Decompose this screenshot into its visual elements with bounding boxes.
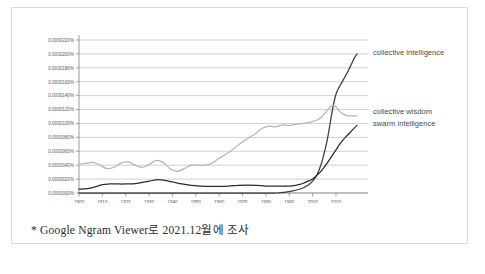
y-axis-tick-labels: 0.0000220%0.0000200%0.0000180%0.0000160%… bbox=[48, 38, 74, 196]
y-tick-label: 0.0000100% bbox=[48, 121, 74, 126]
x-tick-label: 1940 bbox=[167, 200, 178, 204]
series-line bbox=[79, 105, 357, 171]
x-tick-label: 1900 bbox=[74, 200, 85, 204]
series-label: swarm intelligence bbox=[373, 119, 435, 128]
x-tick-label: 2010 bbox=[331, 200, 342, 204]
y-tick-label: 0.0000000% bbox=[48, 191, 74, 196]
y-tick-label: 0.0000160% bbox=[48, 80, 74, 85]
x-tick-label: 1980 bbox=[261, 200, 272, 204]
x-tick-label: 1920 bbox=[121, 200, 132, 204]
series-label: collective intelligence bbox=[373, 48, 444, 57]
x-tick-label: 1970 bbox=[237, 200, 248, 204]
figure-frame: 0.0000220%0.0000200%0.0000180%0.0000160%… bbox=[11, 7, 468, 244]
y-tick-label: 0.0000200% bbox=[48, 52, 74, 57]
y-tick-label: 0.0000060% bbox=[48, 149, 74, 154]
y-tick-label: 0.0000180% bbox=[48, 66, 74, 71]
x-axis-tick-labels: 1900191019201930194019501960197019801990… bbox=[74, 200, 342, 204]
series-annotation-labels: collective intelligencecollective wisdom… bbox=[373, 48, 444, 128]
chart-source-caption: * Google Ngram Viewer로 2021.12월에 조사 bbox=[31, 221, 249, 237]
series-label: collective wisdom bbox=[373, 107, 432, 116]
y-axis-tick-marks bbox=[76, 40, 79, 193]
x-tick-label: 1960 bbox=[214, 200, 225, 204]
gridlines-group bbox=[79, 40, 368, 193]
series-line bbox=[79, 126, 357, 190]
x-tick-label: 2000 bbox=[307, 200, 318, 204]
y-tick-label: 0.0000220% bbox=[48, 38, 74, 43]
x-tick-label: 1950 bbox=[191, 200, 202, 204]
y-tick-label: 0.0000140% bbox=[48, 93, 74, 98]
y-tick-label: 0.0000080% bbox=[48, 135, 74, 140]
chart-svg: 0.0000220%0.0000200%0.0000180%0.0000160%… bbox=[12, 8, 469, 203]
x-tick-label: 1990 bbox=[284, 200, 295, 204]
ngram-chart: 0.0000220%0.0000200%0.0000180%0.0000160%… bbox=[12, 8, 469, 203]
x-tick-label: 1910 bbox=[97, 200, 108, 204]
x-tick-label: 1930 bbox=[144, 200, 155, 204]
y-tick-label: 0.0000040% bbox=[48, 163, 74, 168]
y-tick-label: 0.0000120% bbox=[48, 107, 74, 112]
y-tick-label: 0.0000020% bbox=[48, 177, 74, 182]
